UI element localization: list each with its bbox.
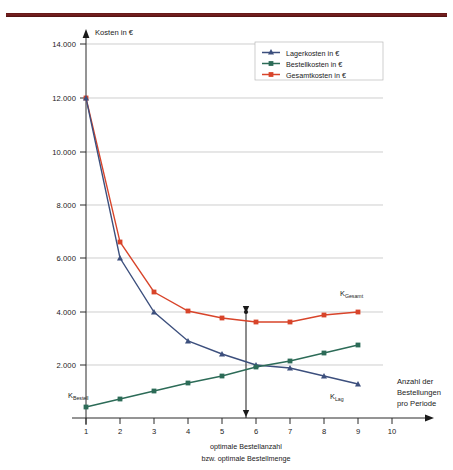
series-bestellkosten: KBestell <box>68 343 360 410</box>
x-tick-label: 1 <box>84 427 88 436</box>
gridlines <box>86 44 383 365</box>
x-tick-label: 7 <box>288 427 292 436</box>
x-tick-label: 9 <box>356 427 360 436</box>
x-axis-title-line2: Bestellungen <box>397 388 441 397</box>
x-tick-label: 10 <box>388 427 396 436</box>
y-tick-label: 14.000 <box>52 40 76 49</box>
curve-label-lagerkosten: KLag <box>330 392 344 402</box>
curve-label-bestellkosten: KBestell <box>68 391 89 401</box>
y-tick-label: 8.000 <box>56 201 76 210</box>
x-tick-label: 8 <box>322 427 326 436</box>
y-axis-title: Kosten in € <box>95 28 134 37</box>
cost-chart-canvas: 14.000 12.000 10.000 8.000 6.000 4.000 2… <box>0 0 453 470</box>
y-tick-label: 10.000 <box>52 148 76 157</box>
optimum-annotation-line1: optimale Bestellanzahl <box>210 442 282 451</box>
legend-label-bestellkosten: Bestellkosten in € <box>286 60 342 69</box>
x-axis <box>72 415 434 424</box>
x-tick-label: 4 <box>186 427 190 436</box>
y-tick-label: 12.000 <box>52 94 76 103</box>
optimum-annotation-line2: bzw. optimale Bestellmenge <box>201 454 290 463</box>
y-tick-label: 4.000 <box>56 308 76 317</box>
chart-figure: 14.000 12.000 10.000 8.000 6.000 4.000 2… <box>0 0 453 470</box>
y-tick-label: 2.000 <box>56 361 76 370</box>
y-tick-label: 6.000 <box>56 254 76 263</box>
square-marker-icon <box>269 61 274 66</box>
x-tick-label: 2 <box>118 427 122 436</box>
legend-label-gesamtkosten: Gesamtkosten in € <box>286 71 346 80</box>
curve-label-gesamtkosten: KGesamt <box>340 289 364 299</box>
y-axis <box>80 29 89 425</box>
x-tick-label: 6 <box>254 427 258 436</box>
chart-legend: Lagerkosten in € Bestellkosten in € Gesa… <box>255 42 383 80</box>
series-gesamtkosten: KGesamt <box>84 96 364 325</box>
x-axis-title-line3: pro Periode <box>397 399 436 408</box>
legend-label-lagerkosten: Lagerkosten in € <box>286 49 339 58</box>
x-axis-title-line1: Anzahl der <box>397 377 434 386</box>
x-tick-label: 3 <box>152 427 156 436</box>
x-tick-label: 5 <box>220 427 224 436</box>
square-marker-icon <box>269 72 274 77</box>
